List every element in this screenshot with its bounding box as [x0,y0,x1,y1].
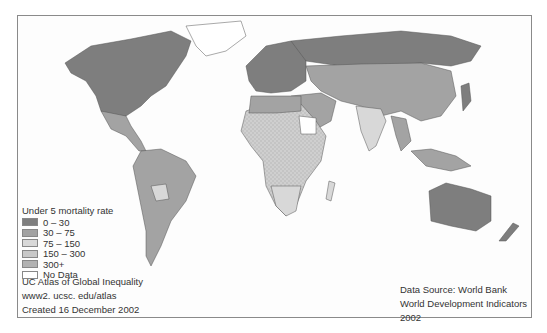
legend-label: 30 – 75 [43,227,75,238]
north-africa [249,96,301,113]
legend-swatch [22,229,38,237]
legend-item: 0 – 30 [22,217,113,228]
southeast-asia [391,116,411,151]
source-line-1: Data Source: World Bank [400,283,547,297]
southern-africa [271,186,301,216]
central-america [101,111,146,151]
legend-label: 0 – 30 [43,217,69,228]
legend-item: 150 – 300 [22,249,113,260]
data-source: Data Source: World Bank World Developmen… [400,283,547,325]
source-line-2: World Development Indicators 2002 [400,297,547,325]
credits-atlas: UC Atlas of Global Inequality [22,275,143,289]
legend-item: 75 – 150 [22,238,113,249]
australia [429,183,491,231]
credits-date: Created 16 December 2002 [22,303,143,317]
legend-swatch [22,239,38,247]
india [356,106,386,151]
greenland [186,21,246,56]
credits: UC Atlas of Global Inequality www2. ucsc… [22,275,143,317]
legend-label: 150 – 300 [43,248,85,259]
legend-label: 300+ [43,259,64,270]
russia [291,31,481,66]
new-zealand [499,223,519,241]
madagascar [326,181,335,201]
legend-swatch [22,218,38,226]
credits-url: www2. ucsc. edu/atlas [22,289,143,303]
legend: Under 5 mortality rate 0 – 30 30 – 75 75… [22,205,113,280]
japan [461,83,471,111]
indonesia [411,149,471,171]
sudan-no-data [299,116,316,134]
legend-item: 30 – 75 [22,228,113,239]
legend-item: 300+ [22,259,113,270]
north-america [65,31,191,119]
legend-title: Under 5 mortality rate [22,205,113,216]
legend-swatch [22,250,38,258]
legend-swatch [22,260,38,268]
legend-label: 75 – 150 [43,238,80,249]
south-america [133,149,196,266]
